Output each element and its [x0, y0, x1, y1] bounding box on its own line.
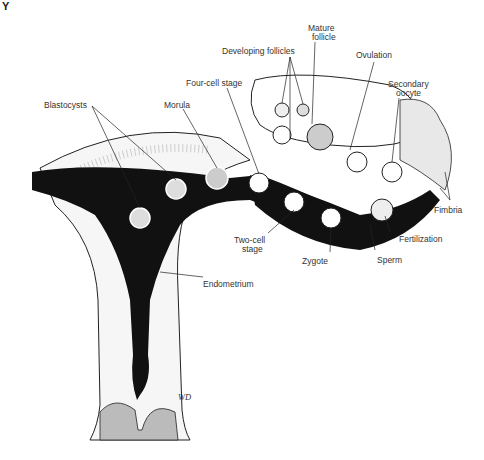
artist-signature: WD	[178, 393, 191, 402]
label-ovulation: Ovulation	[356, 51, 392, 60]
fimbria-shape	[400, 99, 451, 190]
label-endometrium: Endometrium	[203, 280, 254, 289]
label-two-cell-stage-2: stage	[242, 245, 263, 254]
label-morula: Morula	[164, 101, 190, 110]
label-zygote: Zygote	[302, 257, 328, 266]
label-developing-follicles: Developing follicles	[222, 47, 295, 56]
label-blastocysts: Blastocysts	[44, 101, 87, 110]
label-four-cell-stage: Four-cell stage	[186, 79, 242, 88]
reproductive-tract-illustration	[0, 0, 484, 460]
label-mature-follicle-2: follicle	[312, 33, 336, 42]
label-sperm: Sperm	[377, 256, 402, 265]
label-fertilization: Fertilization	[399, 235, 442, 244]
label-secondary-oocyte-2: oocyte	[396, 89, 421, 98]
label-fimbria: Fimbria	[434, 206, 462, 215]
